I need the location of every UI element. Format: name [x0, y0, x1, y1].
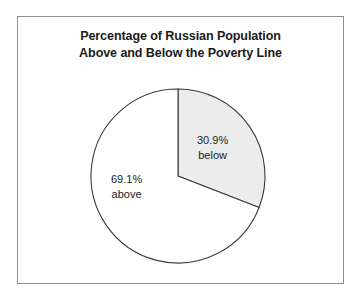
pie-label-below: 30.9% below	[197, 133, 228, 162]
pie-label-below-value: 30.9%	[197, 133, 228, 148]
pie-label-below-name: below	[197, 148, 228, 163]
pie-svg	[18, 17, 345, 285]
pie-label-above-value: 69.1%	[111, 172, 142, 187]
pie-label-above-name: above	[111, 187, 142, 202]
pie-chart-figure: Percentage of Russian Population Above a…	[0, 0, 360, 299]
pie-label-above: 69.1% above	[111, 172, 142, 201]
pie-plot-area: 30.9% below 69.1% above	[18, 17, 345, 285]
chart-frame: Percentage of Russian Population Above a…	[17, 16, 344, 284]
